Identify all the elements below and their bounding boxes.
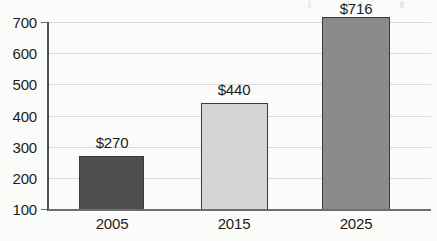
y-tick-label-100: 100	[13, 201, 37, 218]
bar-2015[interactable]	[201, 103, 268, 210]
x-tick-label-2025: 2025	[340, 215, 373, 232]
bar-value-label-2025: $716	[340, 0, 373, 17]
bar-value-label-2015: $440	[218, 81, 251, 98]
y-tick-label-600: 600	[13, 45, 37, 62]
bar-value-label-2005: $270	[96, 134, 129, 151]
y-axis-labels: 700 600 500 400 300 200 100	[0, 0, 48, 211]
y-tick-label-300: 300	[13, 139, 37, 156]
plot-area	[48, 0, 431, 211]
x-tick-label-2015: 2015	[218, 215, 251, 232]
y-axis-line	[47, 22, 49, 211]
y-tick-label-700: 700	[13, 14, 37, 31]
y-tick-label-400: 400	[13, 108, 37, 125]
y-tick-label-200: 200	[13, 170, 37, 187]
bar-2025[interactable]	[322, 17, 390, 210]
x-tick-label-2005: 2005	[96, 215, 129, 232]
x-axis-line	[48, 209, 431, 211]
bar-2005[interactable]	[79, 156, 144, 210]
bar-chart: 700 600 500 400 300 200 100 $270 $440 $7…	[0, 0, 437, 241]
y-tick-label-500: 500	[13, 76, 37, 93]
